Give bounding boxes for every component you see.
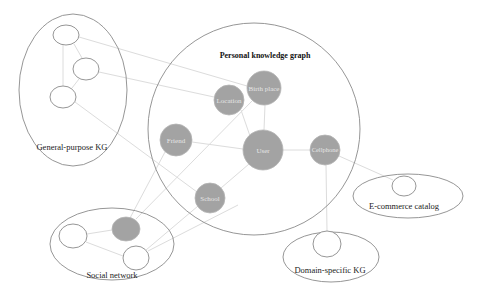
gp-node-3 — [50, 86, 76, 108]
node-location-label: Location — [217, 97, 242, 105]
ecommerce-node — [392, 176, 416, 196]
edge-social-left-right — [86, 242, 123, 256]
personal-kg-title: Personal knowledge graph — [220, 51, 311, 60]
edge-gp2-location — [99, 72, 214, 97]
edge-social-right-up — [148, 205, 238, 251]
node-cellphone: Cellphone — [310, 135, 340, 165]
edge-gp2-gp3 — [72, 79, 79, 88]
edge-friend-user — [192, 142, 243, 149]
domain-specific-kg-label: Domain-specific KG — [294, 265, 365, 275]
knowledge-graph-diagram: Birth place Location Friend User Cellpho… — [0, 0, 477, 297]
gp-node-1 — [53, 25, 79, 45]
node-school: School — [195, 183, 225, 213]
edge-cellphone-domain — [326, 165, 327, 231]
ecommerce-catalog-label: E-commerce catalog — [369, 201, 440, 211]
gp-node-2 — [73, 58, 99, 80]
node-cellphone-label: Cellphone — [312, 146, 339, 153]
domain-node — [313, 231, 341, 257]
node-birth-place: Birth place — [247, 71, 281, 105]
edges — [63, 37, 393, 256]
node-birth-place-label: Birth place — [249, 85, 280, 93]
social-network-label: Social network — [86, 270, 138, 280]
social-node-right — [123, 246, 149, 270]
personal-kg-nodes: Birth place Location Friend User Cellpho… — [160, 71, 340, 213]
edge-gp1-gp2 — [74, 44, 82, 58]
social-node-left — [59, 224, 87, 248]
node-friend-label: Friend — [167, 137, 186, 145]
edge-school-user — [221, 164, 249, 188]
social-node-user — [112, 217, 140, 241]
node-user-label: User — [256, 147, 270, 155]
node-user: User — [243, 130, 283, 170]
node-location: Location — [214, 85, 244, 115]
edge-birthplace-user — [264, 105, 265, 130]
edge-social-left-gray — [87, 230, 112, 234]
node-friend: Friend — [160, 124, 192, 156]
general-purpose-kg-label: General-purpose KG — [36, 142, 107, 152]
edge-friend-social — [130, 152, 165, 218]
node-school-label: School — [200, 195, 220, 203]
edge-school-social — [146, 206, 198, 250]
edge-location-user — [241, 110, 250, 136]
edge-gp1-birthplace — [79, 37, 247, 86]
